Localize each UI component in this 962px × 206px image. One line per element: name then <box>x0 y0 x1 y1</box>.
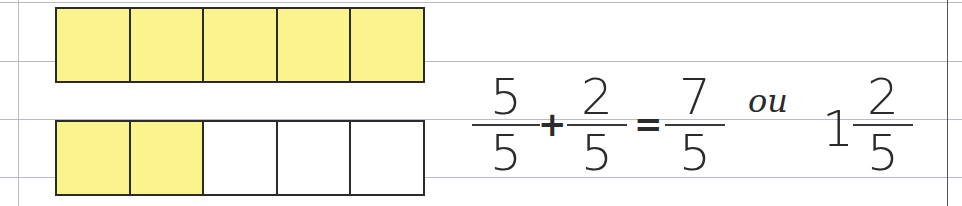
left-margin-line <box>18 0 19 206</box>
denominator: 5 <box>581 128 613 178</box>
filled-cell <box>131 9 205 81</box>
empty-cell <box>204 122 278 194</box>
bar-whole-unit <box>55 7 425 83</box>
denominator: 5 <box>867 128 899 178</box>
fraction-term2: 2 5 <box>566 72 628 178</box>
filled-cell <box>57 9 131 81</box>
mixed-whole: 1 <box>822 100 854 158</box>
filled-cell <box>131 122 205 194</box>
filled-cell <box>204 9 278 81</box>
denominator: 5 <box>490 128 522 178</box>
numerator: 2 <box>867 72 899 122</box>
denominator: 5 <box>679 128 711 178</box>
fraction-term1: 5 5 <box>470 72 542 178</box>
empty-cell <box>278 122 352 194</box>
bar-two-fifths <box>55 120 425 196</box>
filled-cell <box>351 9 423 81</box>
right-margin-line <box>947 0 948 206</box>
fraction-mixed: 2 5 <box>852 72 914 178</box>
numerator: 5 <box>490 72 522 122</box>
plus-sign: + <box>538 104 567 144</box>
equals-sign: = <box>634 104 663 144</box>
ruled-line <box>0 2 962 3</box>
filled-cell <box>57 122 131 194</box>
numerator: 2 <box>581 72 613 122</box>
filled-cell <box>278 9 352 81</box>
empty-cell <box>351 122 423 194</box>
numerator: 7 <box>679 72 711 122</box>
connector-word: ou <box>748 82 788 120</box>
fraction-result: 7 5 <box>664 72 726 178</box>
